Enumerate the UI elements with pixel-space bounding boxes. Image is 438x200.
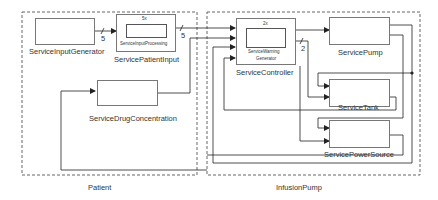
service-patient-input-label: ServicePatientInput — [114, 55, 179, 64]
service-input-processing-label: ServiceInputProcessing — [120, 41, 167, 46]
infusion-pump-group-label: InfusionPump — [276, 183, 322, 192]
service-pump-label: ServicePump — [338, 48, 383, 57]
service-warning-generator-label-2: Generator — [256, 56, 276, 61]
service-drug-concentration-label: ServiceDrugConcentration — [89, 114, 177, 123]
service-controller-label: ServiceController — [236, 68, 294, 77]
patient-group-label: Patient — [88, 183, 111, 192]
service-input-processing-block[interactable] — [126, 24, 167, 38]
service-pump-block[interactable] — [329, 17, 390, 45]
service-power-source-label: ServicePowerSource — [324, 150, 394, 159]
bus-width-controller-tank: 2 — [301, 44, 305, 53]
service-tank-label: ServiceTank — [338, 103, 379, 112]
service-input-generator-label: ServiceInputGenerator — [29, 47, 104, 56]
service-warning-generator-block[interactable] — [246, 28, 286, 48]
service-warning-generator-label-1: ServiceWarning — [248, 49, 280, 54]
bus-width-generator: 5 — [101, 34, 105, 43]
junction-dot — [410, 71, 413, 74]
service-power-source-block[interactable] — [329, 120, 390, 148]
service-warning-generator-mult: 2x — [263, 21, 268, 26]
bus-width-patient-input: 5 — [181, 31, 185, 40]
service-input-processing-mult: 5x — [142, 16, 147, 21]
service-drug-concentration-block[interactable] — [97, 80, 158, 106]
service-input-generator-block[interactable] — [35, 18, 95, 45]
